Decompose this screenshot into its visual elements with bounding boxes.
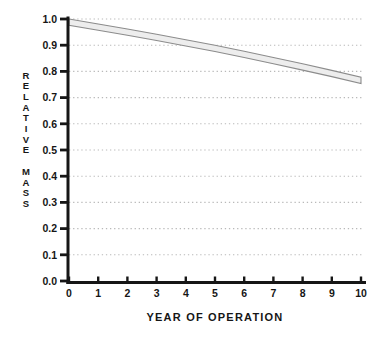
x-tick-label: 7 [270,287,276,299]
y-axis-title-letter: A [23,177,30,188]
x-tick-label: 4 [183,287,189,299]
y-axis-title-letter: E [23,80,29,91]
chart-canvas: 0.00.10.20.30.40.50.60.70.80.91.00123456… [0,0,383,337]
y-tick-label: 0.4 [42,170,57,182]
label-layer: 0.00.10.20.30.40.50.60.70.80.91.00123456… [22,13,367,299]
y-tick-label: 0.9 [42,39,57,51]
x-tick-label: 2 [124,287,130,299]
y-axis-title-letter: S [23,187,29,198]
y-tick-label: 0.1 [42,249,57,261]
y-axis-title-letter: E [23,144,29,155]
x-tick-label: 5 [212,287,218,299]
y-axis-title-letter: L [23,91,29,102]
x-tick-label: 0 [66,287,72,299]
figure: 0.00.10.20.30.40.50.60.70.80.91.00123456… [0,0,383,337]
y-axis-title-letter: V [23,134,30,145]
x-tick-label: 3 [154,287,160,299]
y-tick-label: 0.6 [42,118,57,130]
grid-layer [69,19,364,255]
x-tick-label: 1 [95,287,101,299]
band-layer [69,19,361,83]
x-tick-label: 8 [300,287,306,299]
y-axis-title-letter: T [23,112,29,123]
y-tick-label: 0.0 [42,275,57,287]
relative-mass-band [69,19,361,83]
x-tick-label: 9 [329,287,335,299]
y-tick-label: 0.8 [42,65,57,77]
x-tick-label: 10 [355,287,367,299]
y-axis-title-letter: R [23,70,30,81]
y-tick-label: 0.7 [42,91,57,103]
y-axis-title-letter: A [23,102,30,113]
y-axis-title-letter: M [22,166,30,177]
y-tick-label: 1.0 [42,13,57,25]
y-axis-title-letter: S [23,198,29,209]
y-tick-label: 0.5 [42,144,57,156]
y-axis-title-letter: I [25,123,28,134]
y-tick-label: 0.3 [42,196,57,208]
x-axis-title: YEAR OF OPERATION [147,311,284,323]
x-tick-label: 6 [241,287,247,299]
y-tick-label: 0.2 [42,222,57,234]
